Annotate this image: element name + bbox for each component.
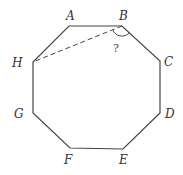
vertex-label-b: B bbox=[118, 9, 128, 23]
vertex-label-g: G bbox=[14, 107, 24, 121]
vertex-label-h: H bbox=[11, 56, 23, 70]
vertex-label-a: A bbox=[65, 9, 75, 23]
vertex-label-d: D bbox=[164, 107, 175, 121]
vertex-label-f: F bbox=[63, 153, 73, 167]
angle-unknown-label: ? bbox=[113, 42, 119, 55]
vertex-label-c: C bbox=[164, 55, 173, 69]
dashed-segment-bh bbox=[33, 26, 122, 62]
octagon-diagram: ? A B C D E F G H bbox=[0, 0, 183, 175]
vertex-label-e: E bbox=[118, 153, 128, 167]
octagon-outline bbox=[33, 26, 160, 149]
